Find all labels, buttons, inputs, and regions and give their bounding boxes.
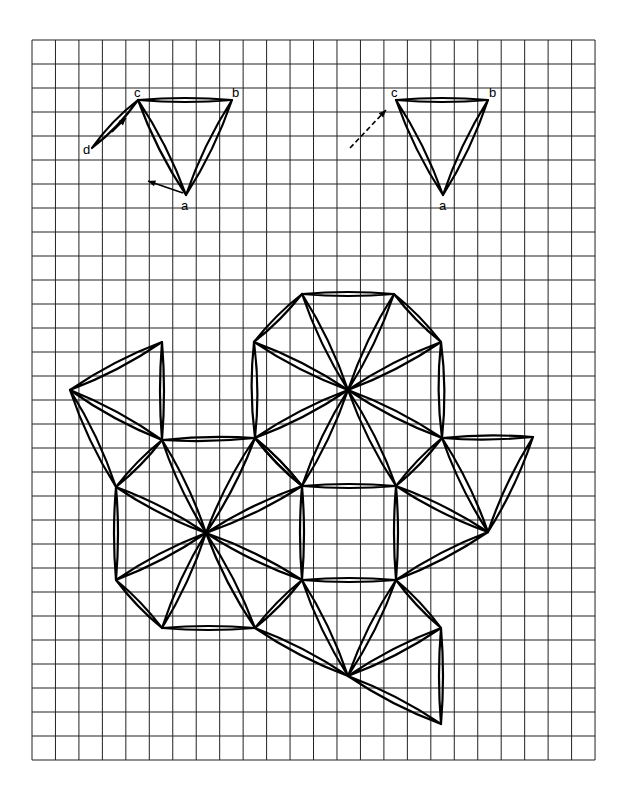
fold-edge (396, 580, 441, 628)
fold-edge (162, 626, 255, 630)
label-a-left: a (181, 198, 189, 213)
label-a-right: a (439, 198, 447, 213)
fold-edge (186, 100, 232, 195)
fold-edge (488, 437, 533, 532)
fold-edge (160, 342, 164, 440)
fold-edge (300, 486, 304, 580)
net-edges (70, 98, 533, 724)
label-c-left: c (134, 85, 141, 100)
label-b-right: b (489, 85, 496, 100)
fold-edge (92, 100, 138, 148)
fold-edge (116, 580, 162, 628)
fold-edge (70, 342, 162, 390)
fold-edge (114, 487, 118, 580)
fold-edge (138, 100, 186, 195)
fold-edge (302, 578, 396, 582)
label-b-left: b (232, 85, 239, 100)
fold-edge (302, 292, 394, 296)
grid-paper (32, 40, 595, 760)
fold-edge (439, 628, 443, 724)
fold-edge (394, 294, 441, 342)
fold-edge (302, 484, 396, 488)
fold-edge (396, 100, 443, 195)
fold-edge (116, 440, 162, 487)
fold-edge (396, 98, 488, 102)
label-d-left: d (83, 142, 90, 157)
fold-edge (138, 98, 232, 102)
fold-edge (348, 676, 441, 724)
fold-edge (396, 532, 488, 580)
fold-edge (394, 486, 398, 580)
fold-edge (396, 438, 442, 486)
fold-up-arrow (350, 110, 386, 148)
fold-edge (254, 294, 302, 342)
geometric-net-diagram: c b a d c b a (0, 0, 628, 793)
fold-edge (255, 580, 302, 628)
fold-edge (162, 437, 255, 441)
fold-edge (255, 438, 302, 486)
fold-edge (442, 435, 533, 439)
label-c-right: c (391, 85, 398, 100)
fold-edge (443, 100, 488, 195)
